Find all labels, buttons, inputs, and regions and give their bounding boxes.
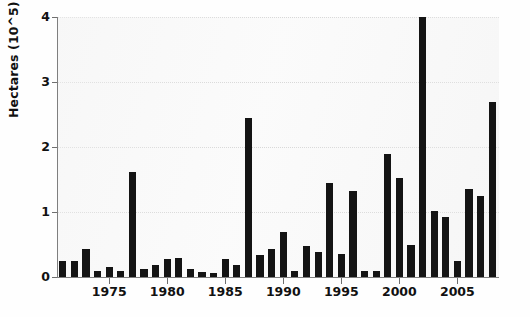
x-tick-mark — [225, 278, 226, 284]
y-tick-label: 4 — [30, 11, 50, 24]
bar — [384, 154, 391, 278]
x-tick-label: 1980 — [141, 286, 193, 299]
bar — [210, 273, 217, 277]
y-tick-label: 2 — [30, 141, 50, 154]
bar — [442, 217, 449, 277]
bar — [396, 178, 403, 277]
x-tick-label: 1975 — [83, 286, 135, 299]
x-tick-mark — [399, 278, 400, 284]
x-tick-label: 1990 — [257, 286, 309, 299]
bar — [152, 265, 159, 277]
bar — [245, 118, 252, 277]
bar — [465, 189, 472, 277]
y-axis-label: Hectares (10^5) — [6, 0, 21, 118]
bar — [187, 269, 194, 277]
x-tick-mark — [109, 278, 110, 284]
y-tick-label: 1 — [30, 206, 50, 219]
bar — [140, 269, 147, 277]
bar — [326, 183, 333, 277]
x-tick-label: 2005 — [431, 286, 483, 299]
bar — [164, 259, 171, 277]
x-tick-mark — [283, 278, 284, 284]
bar — [489, 102, 496, 278]
bar — [361, 271, 368, 278]
bar — [82, 249, 89, 277]
bar — [94, 271, 101, 278]
bar — [117, 271, 124, 278]
bar — [71, 261, 78, 277]
bar — [256, 255, 263, 277]
bar — [373, 271, 380, 277]
bar — [106, 267, 113, 277]
bar — [198, 272, 205, 277]
bar — [315, 252, 322, 277]
bar — [477, 196, 484, 277]
bar — [431, 211, 438, 277]
bar — [407, 245, 414, 278]
x-tick-label: 1995 — [315, 286, 367, 299]
y-tick-label: 0 — [30, 271, 50, 284]
y-tick-label: 3 — [30, 76, 50, 89]
bar — [303, 246, 310, 277]
x-tick-mark — [167, 278, 168, 284]
bar — [129, 172, 136, 277]
bar — [419, 17, 426, 277]
x-tick-label: 2000 — [373, 286, 425, 299]
bar — [222, 259, 229, 277]
bar — [175, 258, 182, 278]
bar-chart-figure: Hectares (10^5) 01234 197519801985199019… — [0, 0, 530, 317]
x-tick-label: 1985 — [199, 286, 251, 299]
bar — [349, 191, 356, 277]
bar — [233, 265, 240, 277]
bar-series — [58, 17, 498, 277]
bar — [338, 254, 345, 277]
bar — [280, 232, 287, 277]
x-tick-mark — [341, 278, 342, 284]
bar — [454, 261, 461, 277]
bar — [291, 271, 298, 278]
bar — [59, 261, 66, 277]
x-tick-mark — [457, 278, 458, 284]
bar — [268, 249, 275, 277]
